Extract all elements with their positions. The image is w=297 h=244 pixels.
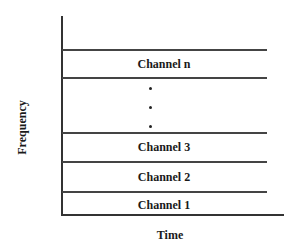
y-axis bbox=[61, 16, 63, 216]
band-divider bbox=[62, 77, 267, 79]
channel-2-label: Channel 2 bbox=[94, 170, 234, 185]
band-divider bbox=[62, 132, 267, 134]
band-divider bbox=[62, 191, 267, 193]
channel-n-label: Channel n bbox=[94, 57, 234, 72]
channel-1-label: Channel 1 bbox=[94, 198, 234, 213]
x-axis bbox=[61, 214, 284, 216]
y-axis-label: Frequency bbox=[15, 98, 30, 158]
band-divider bbox=[62, 49, 267, 51]
x-axis-label: Time bbox=[140, 228, 200, 243]
band-divider bbox=[62, 161, 267, 163]
ellipsis-dot bbox=[149, 106, 152, 109]
channel-3-label: Channel 3 bbox=[94, 140, 234, 155]
ellipsis-dot bbox=[149, 87, 152, 90]
ellipsis-dot bbox=[149, 125, 152, 128]
